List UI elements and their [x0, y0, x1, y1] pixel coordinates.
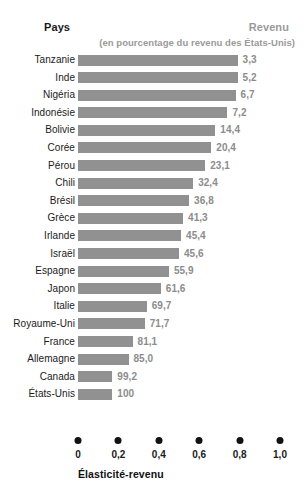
row-country-label: Pérou [48, 160, 75, 171]
chart-row: Chili32,4 [0, 175, 307, 193]
row-country-label: Israël [50, 248, 75, 259]
chart-row: Nigéria6,7 [0, 87, 307, 105]
chart-row: Indonésie7,2 [0, 105, 307, 123]
row-bar [78, 318, 145, 329]
row-country-label: Tanzanie [35, 54, 75, 65]
chart-row: Israël45,6 [0, 246, 307, 264]
x-axis: Élasticité-revenu 00,20,40,60,81,0 [0, 437, 307, 492]
row-bar [78, 371, 112, 382]
axis-tick-label: 0,6 [192, 449, 206, 460]
row-income-value: 41,3 [188, 212, 208, 223]
row-income-value: 61,6 [166, 283, 186, 294]
axis-tick-dot [236, 437, 243, 444]
row-bar [78, 178, 193, 189]
row-country-label: Bolivie [45, 124, 75, 135]
chart-row: Tanzanie3,3 [0, 52, 307, 70]
chart-row: Pérou23,1 [0, 158, 307, 176]
row-country-label: Canada [40, 371, 75, 382]
axis-tick-dot [75, 437, 82, 444]
row-income-value: 81,1 [138, 336, 158, 347]
row-bar [78, 90, 236, 101]
chart-row: Brésil36,8 [0, 193, 307, 211]
row-bar [78, 72, 238, 83]
row-income-value: 23,1 [210, 160, 230, 171]
row-income-value: 69,7 [152, 300, 172, 311]
row-country-label: Grèce [48, 212, 75, 223]
row-income-value: 3,3 [243, 54, 257, 65]
row-bar [78, 160, 205, 171]
chart-row: Irlande45,4 [0, 228, 307, 246]
row-bar [78, 107, 227, 118]
row-country-label: Nigéria [43, 89, 75, 100]
column-header-country: Pays [44, 21, 70, 33]
chart-row: Espagne55,9 [0, 263, 307, 281]
row-bar [78, 142, 211, 153]
row-bar [78, 266, 169, 277]
chart-row: Inde5,2 [0, 70, 307, 88]
row-country-label: Espagne [35, 265, 75, 276]
chart-row: Japon61,6 [0, 281, 307, 299]
axis-tick-dot [277, 437, 284, 444]
row-bar [78, 301, 147, 312]
row-country-label: Corée [48, 142, 76, 153]
axis-tick-label: 0,2 [111, 449, 125, 460]
axis-tick-label: 1,0 [273, 449, 287, 460]
row-bar [78, 248, 179, 259]
row-income-value: 85,0 [134, 353, 154, 364]
row-country-label: Irlande [44, 230, 75, 241]
chart-row: Royaume-Uni71,7 [0, 316, 307, 334]
row-country-label: Indonésie [31, 107, 75, 118]
chart-row: Canada99,2 [0, 369, 307, 387]
column-header-income: Revenu [249, 21, 289, 33]
chart-row: Corée20,4 [0, 140, 307, 158]
row-bar [78, 336, 133, 347]
chart-row: Grèce41,3 [0, 210, 307, 228]
row-country-label: Chili [55, 177, 75, 188]
row-income-value: 36,8 [194, 195, 214, 206]
axis-tick-label: 0,8 [233, 449, 247, 460]
chart-row: Bolivie14,4 [0, 122, 307, 140]
row-country-label: Inde [55, 72, 75, 83]
row-income-value: 71,7 [150, 318, 170, 329]
row-country-label: Japon [48, 283, 76, 294]
row-income-value: 32,4 [198, 177, 218, 188]
row-income-value: 99,2 [117, 371, 137, 382]
income-elasticity-bar-chart: Pays Revenu (en pourcentage du revenu de… [0, 0, 307, 492]
axis-tick-dot [115, 437, 122, 444]
chart-header: Pays Revenu (en pourcentage du revenu de… [0, 10, 307, 50]
chart-rows: Tanzanie3,3Inde5,2Nigéria6,7Indonésie7,2… [0, 52, 307, 404]
row-bar [78, 55, 238, 66]
row-country-label: États-Unis [28, 388, 75, 399]
chart-row: France81,1 [0, 334, 307, 352]
row-country-label: France [44, 336, 75, 347]
column-header-income-subtitle: (en pourcentage du revenu des États-Unis… [99, 37, 295, 48]
row-bar [78, 283, 161, 294]
row-income-value: 45,4 [186, 230, 206, 241]
row-income-value: 20,4 [216, 142, 236, 153]
row-income-value: 100 [117, 388, 134, 399]
row-income-value: 14,4 [220, 124, 240, 135]
row-income-value: 45,6 [184, 248, 204, 259]
row-income-value: 7,2 [232, 107, 246, 118]
row-bar [78, 195, 189, 206]
x-axis-title: Élasticité-revenu [78, 468, 164, 480]
axis-tick-dot [196, 437, 203, 444]
row-country-label: Italie [54, 300, 75, 311]
row-bar [78, 230, 181, 241]
chart-row: Allemagne85,0 [0, 351, 307, 369]
row-bar [78, 354, 129, 365]
row-income-value: 55,9 [174, 265, 194, 276]
row-bar [78, 213, 183, 224]
axis-tick-label: 0,4 [152, 449, 166, 460]
row-bar [78, 389, 112, 400]
row-bar [78, 125, 215, 136]
chart-row: Italie69,7 [0, 298, 307, 316]
chart-row: États-Unis100 [0, 386, 307, 404]
row-income-value: 6,7 [241, 89, 255, 100]
axis-tick-label: 0 [75, 449, 81, 460]
row-country-label: Brésil [50, 195, 75, 206]
row-income-value: 5,2 [243, 72, 257, 83]
row-country-label: Royaume-Uni [13, 318, 75, 329]
row-country-label: Allemagne [27, 353, 75, 364]
axis-tick-dot [155, 437, 162, 444]
